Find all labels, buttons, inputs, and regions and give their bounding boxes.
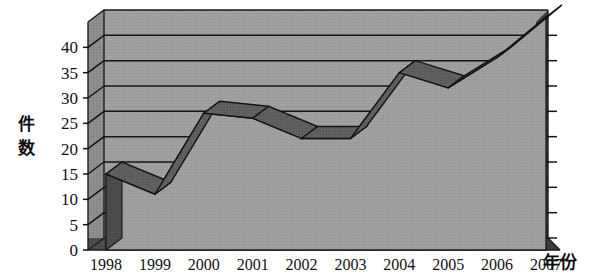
y-tick-label: 15 — [61, 165, 78, 184]
y-tick-label: 30 — [61, 89, 78, 108]
y-tick-label: 25 — [61, 114, 78, 133]
x-tick-label: 2003 — [334, 256, 366, 273]
y-axis-labels: 0510152025303540 — [61, 38, 78, 260]
x-tick-label: 2001 — [237, 256, 269, 273]
x-axis-title: 年份 — [543, 252, 578, 272]
y-tick-label: 20 — [61, 140, 78, 159]
x-axis-labels: 1998199920002001200220032004200520062007 — [90, 256, 562, 273]
x-tick-label: 2004 — [383, 256, 415, 273]
y-tick-label: 35 — [61, 64, 78, 83]
area-chart-3d: 0510152025303540 19981999200020012002200… — [0, 0, 592, 277]
x-tick-label: 2000 — [188, 256, 220, 273]
chart-figure: 0510152025303540 19981999200020012002200… — [0, 0, 592, 277]
y-axis-ticks — [83, 47, 88, 250]
x-tick-label: 2002 — [286, 256, 318, 273]
x-tick-label: 1999 — [139, 256, 171, 273]
y-tick-label: 40 — [61, 38, 78, 57]
right-axis-ticks — [548, 35, 557, 238]
y-tick-label: 5 — [70, 216, 79, 235]
x-tick-label: 2005 — [432, 256, 464, 273]
y-axis-title-line1: 件 — [18, 114, 35, 134]
y-tick-label: 0 — [70, 241, 79, 260]
x-tick-label: 1998 — [90, 256, 122, 273]
x-tick-label: 2006 — [481, 256, 513, 273]
y-tick-label: 10 — [61, 190, 78, 209]
y-axis-title-line2: 数 — [18, 138, 36, 158]
